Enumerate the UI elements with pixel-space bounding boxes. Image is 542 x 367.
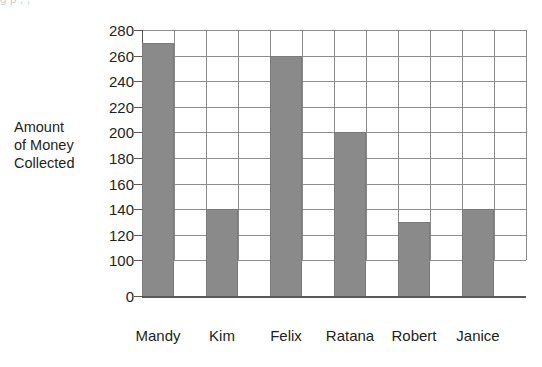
x-label-ratana: Ratana xyxy=(323,326,377,346)
y-tick-label-120: 120 xyxy=(90,228,134,243)
y-tick-mark-0 xyxy=(134,296,142,297)
y-tick-mark-280 xyxy=(134,30,142,31)
y-tick-label-260: 260 xyxy=(90,49,134,64)
x-label-felix: Felix xyxy=(259,326,313,346)
y-tick-mark-220 xyxy=(134,107,142,108)
y-tick-label-240: 240 xyxy=(90,74,134,89)
bar-kim xyxy=(206,209,238,296)
x-label-robert: Robert xyxy=(387,326,441,346)
y-tick-label-220: 220 xyxy=(90,100,134,115)
y-tick-label-100: 100 xyxy=(90,253,134,268)
y-axis-tick-labels: 2802602402202001801601401201000 xyxy=(0,30,134,322)
x-axis-category-labels: MandyKimFelixRatanaRobertJanice xyxy=(142,326,526,350)
y-tick-label-160: 160 xyxy=(90,177,134,192)
y-tick-label-280: 280 xyxy=(90,23,134,38)
x-label-mandy: Mandy xyxy=(131,326,185,346)
x-label-janice: Janice xyxy=(451,326,505,346)
y-tick-mark-180 xyxy=(134,158,142,159)
bar-janice xyxy=(462,209,494,296)
y-tick-mark-160 xyxy=(134,184,142,185)
y-tick-mark-100 xyxy=(134,260,142,261)
y-tick-label-140: 140 xyxy=(90,202,134,217)
bar-ratana xyxy=(334,132,366,296)
bar-chart: g p , , Amount of Money Collected 280260… xyxy=(0,0,542,367)
y-tick-label-180: 180 xyxy=(90,151,134,166)
vertical-gridline-12 xyxy=(526,30,527,260)
plot-area xyxy=(142,30,526,322)
bar-felix xyxy=(270,56,302,297)
clipped-header-text: g p , , xyxy=(0,0,542,5)
y-tick-label-0: 0 xyxy=(90,289,134,304)
y-tick-mark-200 xyxy=(134,132,142,133)
bar-robert xyxy=(398,222,430,296)
y-tick-mark-240 xyxy=(134,81,142,82)
y-tick-mark-260 xyxy=(134,56,142,57)
bar-series xyxy=(142,30,526,322)
y-tick-mark-140 xyxy=(134,209,142,210)
bar-mandy xyxy=(142,43,174,297)
x-label-kim: Kim xyxy=(195,326,249,346)
y-tick-label-200: 200 xyxy=(90,125,134,140)
y-tick-mark-120 xyxy=(134,235,142,236)
